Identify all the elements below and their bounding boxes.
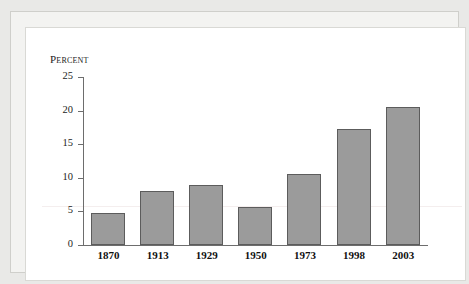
chart-panel: Percent 0 5 10 15 <box>25 27 466 281</box>
figure-bevel-border: Percent 0 5 10 15 <box>10 11 459 273</box>
x-tick-label-1913: 1913 <box>133 249 182 261</box>
bar-series: 1870 1913 1929 1950 <box>84 77 428 245</box>
bar-slot: 1998 <box>330 77 379 245</box>
y-tick-label: 15 <box>63 137 74 148</box>
x-tick-label-1870: 1870 <box>84 249 133 261</box>
bar-1929[interactable] <box>189 185 223 245</box>
y-tick-label: 10 <box>63 171 74 182</box>
bar-slot: 2003 <box>379 77 428 245</box>
x-axis-line <box>83 245 428 246</box>
bar-1973[interactable] <box>287 174 321 245</box>
bar-slot: 1973 <box>280 77 329 245</box>
x-tick-label-1929: 1929 <box>182 249 231 261</box>
x-tick-label-1973: 1973 <box>280 249 329 261</box>
y-tick-label: 25 <box>63 70 74 81</box>
figure-background: Percent 0 5 10 15 <box>0 0 469 284</box>
bar-slot: 1913 <box>133 77 182 245</box>
x-tick-label-2003: 2003 <box>379 249 428 261</box>
bar-1870[interactable] <box>91 213 125 245</box>
y-tick-label: 0 <box>68 238 73 249</box>
bar-2003[interactable] <box>386 107 420 245</box>
y-axis-title: Percent <box>50 53 89 65</box>
bar-slot: 1870 <box>84 77 133 245</box>
y-tick-label: 5 <box>68 204 73 215</box>
y-tick-label: 20 <box>63 104 74 115</box>
bar-slot: 1950 <box>231 77 280 245</box>
bar-1950[interactable] <box>238 207 272 245</box>
bar-1913[interactable] <box>140 191 174 245</box>
bar-slot: 1929 <box>182 77 231 245</box>
y-tick: 0 <box>78 245 84 246</box>
x-tick-label-1950: 1950 <box>231 249 280 261</box>
chart-plot-area: Percent 0 5 10 15 <box>26 28 467 282</box>
x-tick-label-1998: 1998 <box>330 249 379 261</box>
bar-1998[interactable] <box>337 129 371 245</box>
